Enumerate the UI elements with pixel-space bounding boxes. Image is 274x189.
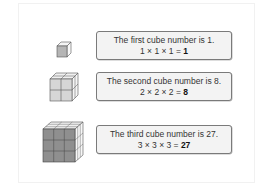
- cube-fact-box-1: The first cube number is 1. 1 × 1 × 1 = …: [96, 31, 232, 60]
- cube-sentence: The first cube number is 1.: [97, 35, 231, 46]
- cube-1x1-icon: [54, 40, 74, 60]
- cube-fact-box-2: The second cube number is 8. 2 × 2 × 2 =…: [96, 72, 232, 101]
- cube-fact-box-3: The third cube number is 27. 3 × 3 × 3 =…: [96, 125, 232, 154]
- cube-equation: 1 × 1 × 1 = 1: [97, 46, 231, 57]
- cube-2x2-icon: [48, 72, 80, 102]
- cube-sentence: The second cube number is 8.: [97, 76, 231, 87]
- cube-equation: 2 × 2 × 2 = 8: [97, 87, 231, 98]
- cube-result: 1: [183, 46, 188, 56]
- cube-result: 8: [183, 87, 188, 97]
- cube-result: 27: [181, 140, 190, 150]
- cube-equation: 3 × 3 × 3 = 27: [97, 140, 231, 151]
- cube-sentence: The third cube number is 27.: [97, 129, 231, 140]
- cube-3x3-icon: [41, 121, 85, 164]
